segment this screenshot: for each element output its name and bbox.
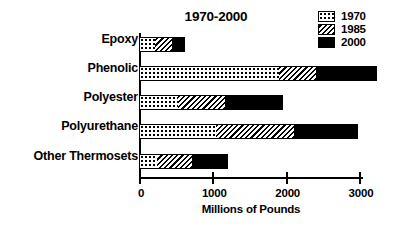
bar-segment-2000 [225,95,283,110]
bar-segment-1985 [279,66,316,81]
x-tick-label-1000: 1000 [194,187,234,199]
bar-row-polyurethane [140,124,358,139]
bar-segment-1970 [140,37,155,52]
category-label-wrap-2: Polyester [0,90,138,106]
category-label-wrap-3: Polyurethane [0,119,138,135]
category-label-polyurethane: Polyurethane [0,119,138,133]
x-tick-label-3000: 3000 [341,187,381,199]
bar-segment-1985 [155,37,172,52]
x-tick-2000 [286,172,288,184]
x-tick-label-0: 0 [121,187,161,199]
x-tick-label-2000: 2000 [268,187,308,199]
x-tick-3000 [359,172,361,184]
bar-segment-2000 [316,66,377,81]
category-label-wrap-0: Epoxy [0,32,138,48]
x-tick-0 [139,172,141,184]
bar-segment-1985 [157,154,192,169]
bar-row-polyester [140,95,283,110]
bar-segment-1970 [140,95,178,110]
bar-segment-2000 [172,37,185,52]
category-label-phenolic: Phenolic [0,61,138,75]
category-label-other-thermosets: Other Thermosets [0,149,138,163]
category-label-polyester: Polyester [0,90,138,104]
bar-segment-1985 [216,124,294,139]
bar-segment-2000 [294,124,358,139]
bar-row-other-thermosets [140,154,228,169]
bar-row-phenolic [140,66,377,81]
bar-segment-2000 [192,154,228,169]
category-label-wrap-1: Phenolic [0,61,138,77]
category-label-epoxy: Epoxy [0,32,138,46]
bar-segment-1970 [140,124,216,139]
plot-area: Epoxy Phenolic Polyester Polyurethane Ot… [0,0,398,233]
x-axis-line [139,177,363,179]
x-tick-1000 [212,172,214,184]
bar-segment-1985 [178,95,225,110]
bar-chart: 1970-2000 1970 1985 2000 Epoxy Phenolic … [0,0,398,233]
bar-segment-1970 [140,154,157,169]
bar-row-epoxy [140,37,185,52]
bar-segment-1970 [140,66,279,81]
x-axis-title: Millions of Pounds [139,203,363,215]
category-label-wrap-4: Other Thermosets [0,149,138,165]
